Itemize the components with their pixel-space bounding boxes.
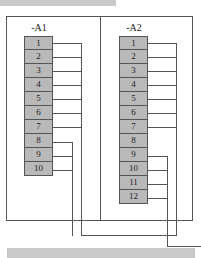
terminal-a2-9: 9 [119, 148, 148, 162]
terminal-a1-3: 3 [24, 64, 53, 78]
terminal-a1-9: 9 [24, 148, 53, 162]
footer-bar [7, 248, 195, 258]
panel-label-a2: -A2 [119, 22, 149, 33]
a2-bus-2 [148, 157, 201, 247]
terminal-a1-1: 1 [24, 36, 53, 50]
terminal-a2-2: 2 [119, 50, 148, 64]
terminal-a2-5: 5 [119, 92, 148, 106]
terminal-block-a2: 1 2 3 4 5 6 7 8 9 10 11 12 [119, 36, 148, 204]
terminal-a1-4: 4 [24, 78, 53, 92]
terminal-a1-10: 10 [24, 162, 53, 176]
a1-bus-1 [53, 44, 177, 236]
terminal-block-a1: 1 2 3 4 5 6 7 8 9 10 [24, 36, 53, 176]
terminal-a2-11: 11 [119, 176, 148, 190]
terminal-a1-6: 6 [24, 106, 53, 120]
terminal-a2-12: 12 [119, 190, 148, 204]
panel-label-a1: -A1 [24, 22, 54, 33]
terminal-a1-2: 2 [24, 50, 53, 64]
terminal-a2-6: 6 [119, 106, 148, 120]
terminal-a2-3: 3 [119, 64, 148, 78]
a1-bus-2 [53, 143, 73, 237]
terminal-a2-7: 7 [119, 120, 148, 134]
terminal-a1-5: 5 [24, 92, 53, 106]
terminal-a2-8: 8 [119, 134, 148, 148]
terminal-a1-8: 8 [24, 134, 53, 148]
terminal-a2-4: 4 [119, 78, 148, 92]
terminal-a2-1: 1 [119, 36, 148, 50]
a2-bus-1 [148, 44, 177, 221]
terminal-a2-10: 10 [119, 162, 148, 176]
terminal-a1-7: 7 [24, 120, 53, 134]
